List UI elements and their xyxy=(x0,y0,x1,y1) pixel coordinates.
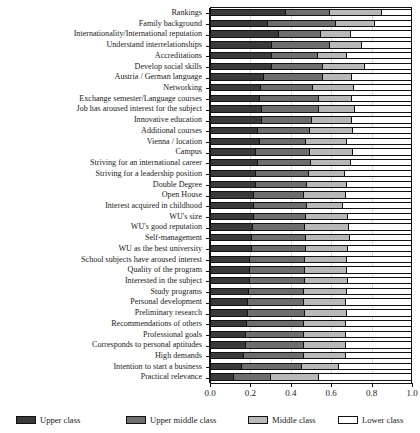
bar-segment xyxy=(303,332,345,337)
legend-label: Upper class xyxy=(40,415,80,425)
bar-segment xyxy=(241,364,301,369)
bar-segment xyxy=(354,106,411,111)
chart-row xyxy=(210,201,412,212)
bar-segment xyxy=(346,257,411,262)
chart-row xyxy=(210,255,412,266)
bar-segment xyxy=(350,160,411,165)
bar-segment xyxy=(211,224,252,229)
category-tick xyxy=(206,292,209,293)
chart-row xyxy=(210,72,412,83)
bar-segment xyxy=(345,321,411,326)
bar-segment xyxy=(255,182,306,187)
chart-row xyxy=(210,115,412,126)
bar-segment xyxy=(211,342,245,347)
bar-segment xyxy=(211,267,249,272)
category-tick xyxy=(206,378,209,379)
bar-segment xyxy=(211,42,271,47)
category-label: Accreditations xyxy=(0,51,206,62)
category-tick xyxy=(206,88,209,89)
bar-segment xyxy=(329,42,361,47)
bar-segment xyxy=(346,182,411,187)
category-label: Study programs xyxy=(0,287,206,298)
category-tick xyxy=(206,35,209,36)
category-tick xyxy=(206,196,209,197)
bar-segment xyxy=(211,128,257,133)
category-label: Double Degree xyxy=(0,180,206,191)
bar-segment xyxy=(211,117,261,122)
bar-segment xyxy=(259,96,319,101)
category-tick xyxy=(206,13,209,14)
bar-segment xyxy=(312,85,353,90)
legend-item[interactable]: Upper middle class xyxy=(126,415,216,425)
category-label: Internationality/International reputatio… xyxy=(0,29,206,40)
chart-row xyxy=(210,244,412,255)
bar-segment xyxy=(304,278,346,283)
category-label: Open House xyxy=(0,190,206,201)
bar-segment xyxy=(347,278,411,283)
category-label: Interest acquired in childhood xyxy=(0,201,206,212)
bar-segment xyxy=(249,257,304,262)
bar-segment xyxy=(211,96,259,101)
bar-segment xyxy=(301,364,337,369)
bar-segment xyxy=(211,106,261,111)
stacked-bar xyxy=(210,352,412,359)
chart-row xyxy=(210,19,412,30)
bar-segment xyxy=(211,214,253,219)
bar-segment xyxy=(251,246,305,251)
bar-segment xyxy=(303,289,345,294)
bar-segment xyxy=(346,289,411,294)
bar-segment xyxy=(255,171,308,176)
x-tick xyxy=(412,383,413,387)
stacked-bar xyxy=(210,9,412,16)
bar-segment xyxy=(267,21,335,26)
chart-row xyxy=(210,297,412,308)
category-tick xyxy=(206,185,209,186)
bar-segment xyxy=(303,342,345,347)
bar-segment xyxy=(278,31,320,36)
bar-segment xyxy=(261,117,311,122)
bar-segment xyxy=(318,96,350,101)
bar-segment xyxy=(304,267,346,272)
category-label: Professional goals xyxy=(0,330,206,341)
bar-segment xyxy=(261,106,318,111)
stacked-bar xyxy=(210,331,412,338)
category-tick xyxy=(206,249,209,250)
bar-segment xyxy=(309,149,352,154)
bar-segment xyxy=(253,214,305,219)
category-tick xyxy=(206,206,209,207)
bar-segment xyxy=(211,139,259,144)
legend-swatch xyxy=(16,416,36,424)
chart-row xyxy=(210,8,412,19)
legend-item[interactable]: Lower class xyxy=(338,415,403,425)
bar-segment xyxy=(322,64,364,69)
bar-segment xyxy=(249,278,305,283)
category-label: High demands xyxy=(0,351,206,362)
bar-segment xyxy=(211,31,278,36)
chart-row xyxy=(210,40,412,51)
bar-segment xyxy=(211,289,248,294)
bar-segment xyxy=(344,171,411,176)
category-label: Preliminary research xyxy=(0,308,206,319)
category-label: Networking xyxy=(0,83,206,94)
chart-row xyxy=(210,287,412,298)
bar-segment xyxy=(249,267,304,272)
legend-item[interactable]: Middle class xyxy=(248,415,316,425)
x-tick-label: 0.8 xyxy=(366,388,377,398)
x-tick-label: 1.0 xyxy=(406,388,417,398)
category-axis-labels: RankingsFamily backgroundInternationalit… xyxy=(0,8,206,383)
bar-segment xyxy=(353,85,411,90)
stacked-bar xyxy=(210,181,412,188)
stacked-bar xyxy=(210,266,412,273)
stacked-bar xyxy=(210,20,412,27)
bar-segment xyxy=(211,171,255,176)
chart-row xyxy=(210,212,412,223)
category-label: Austria / German language xyxy=(0,72,206,83)
stacked-bar xyxy=(210,138,412,145)
category-tick xyxy=(206,346,209,347)
category-label: Understand interrelationships xyxy=(0,40,206,51)
category-label: WU as the best university xyxy=(0,244,206,255)
bar-segment xyxy=(381,10,411,15)
chart-row xyxy=(210,330,412,341)
bar-segment xyxy=(345,299,411,304)
legend-item[interactable]: Upper class xyxy=(16,415,80,425)
